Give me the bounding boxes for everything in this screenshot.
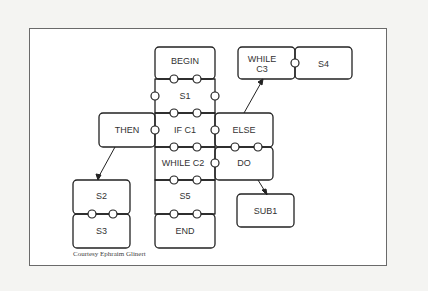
label-s2: S2 [73, 191, 130, 201]
label-while-c3-line1: WHILE [238, 54, 286, 64]
label-s4: S4 [295, 59, 352, 69]
label-then: THEN [99, 125, 155, 135]
label-s5: S5 [155, 191, 215, 201]
puzzle-diagram [0, 0, 428, 291]
credit-caption: Courtesy Ephraim Glinert [73, 250, 146, 258]
label-while-c3-line2: C3 [238, 64, 286, 74]
label-begin: BEGIN [155, 56, 215, 66]
label-s3: S3 [73, 226, 130, 236]
label-if-c1: IF C1 [155, 125, 215, 135]
label-else: ELSE [215, 125, 273, 135]
label-while-c2: WHILE C2 [155, 158, 211, 168]
label-do: DO [215, 158, 273, 168]
label-sub1: SUB1 [237, 206, 294, 216]
label-s1: S1 [155, 91, 215, 101]
label-end: END [155, 226, 215, 236]
